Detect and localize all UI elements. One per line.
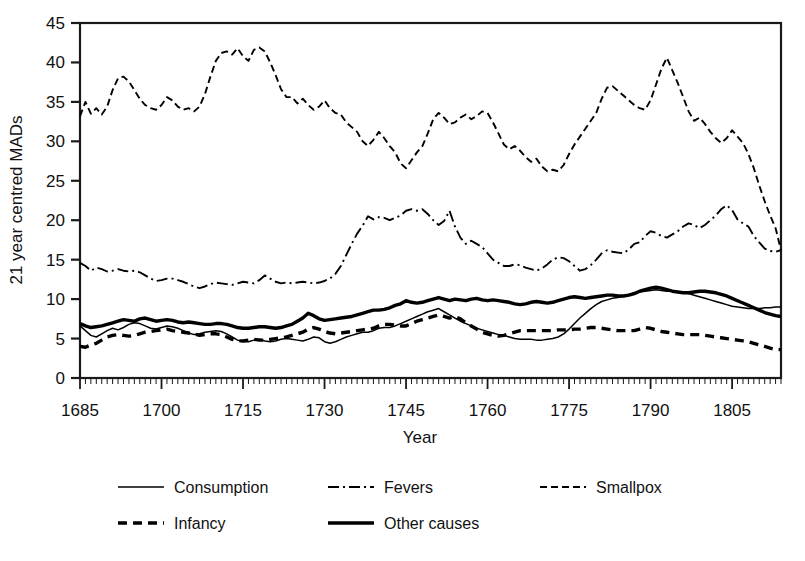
chart-legend: ConsumptionFeversSmallpoxInfancyOther ca… [118, 479, 662, 532]
x-tick-label: 1685 [61, 401, 99, 420]
legend-label-other-causes: Other causes [384, 515, 479, 532]
y-tick-label: 45 [46, 14, 65, 33]
x-tick-label: 1790 [632, 401, 670, 420]
x-tick-label: 1730 [306, 401, 344, 420]
y-tick-label: 35 [46, 93, 65, 112]
legend-label-fevers: Fevers [384, 479, 433, 496]
y-axis-ticks: 051015202530354045 [46, 14, 80, 388]
x-tick-label: 1760 [469, 401, 507, 420]
figure-container: 051015202530354045 168517001715173017451… [0, 0, 805, 561]
plot-frame [80, 23, 781, 378]
series-line-other-causes [80, 287, 781, 328]
y-axis-title: 21 year centred MADs [7, 115, 26, 284]
x-tick-label: 1715 [224, 401, 262, 420]
x-tick-label: 1775 [550, 401, 588, 420]
series-line-fevers [80, 205, 781, 288]
plot-border [80, 23, 781, 378]
x-axis-title: Year [403, 428, 438, 447]
y-tick-label: 10 [46, 290, 65, 309]
y-tick-label: 15 [46, 251, 65, 270]
series-line-smallpox [80, 47, 781, 250]
y-tick-label: 5 [56, 330, 65, 349]
line-chart: 051015202530354045 168517001715173017451… [0, 0, 805, 561]
legend-label-smallpox: Smallpox [596, 479, 662, 496]
y-tick-label: 40 [46, 53, 65, 72]
y-tick-label: 20 [46, 211, 65, 230]
series-lines [80, 47, 781, 349]
y-tick-label: 0 [56, 369, 65, 388]
y-tick-label: 30 [46, 132, 65, 151]
x-axis-ticks: 168517001715173017451760177517901805 [61, 378, 781, 420]
x-tick-label: 1745 [387, 401, 425, 420]
legend-label-infancy: Infancy [174, 515, 226, 532]
x-tick-label: 1700 [143, 401, 181, 420]
y-tick-label: 25 [46, 172, 65, 191]
series-line-infancy [80, 315, 781, 350]
x-tick-label: 1805 [713, 401, 751, 420]
legend-label-consumption: Consumption [174, 479, 268, 496]
